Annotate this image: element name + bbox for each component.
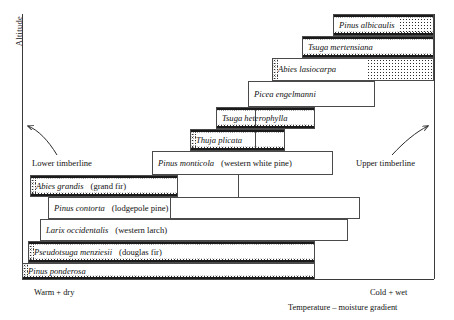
species-label: Thuja plicata [191, 136, 242, 145]
species-scientific-name: Pseudotsuga menziesii [34, 247, 112, 257]
species-scientific-name: Tsuga heterophylla [222, 113, 288, 123]
species-label: Pseudotsuga menziesii(douglas fir) [29, 248, 162, 257]
species-common-name: (western larch) [108, 225, 167, 235]
edge-line-bottom [23, 277, 314, 279]
x-axis-left-label: Warm + dry [34, 288, 74, 297]
species-label: Pinus albicaulis [334, 21, 395, 30]
x-axis-right-label: Cold + wet [370, 288, 407, 297]
edge-line-bottom [303, 55, 433, 57]
species-scientific-name: Abies lasiocarpa [278, 64, 336, 74]
species-bar[interactable]: Abies lasiocarpa [272, 58, 434, 81]
edge-line-top [31, 176, 177, 178]
species-label: Tsuga mertensiana [303, 43, 373, 52]
species-scientific-name: Pinus contorta [54, 203, 105, 213]
diagram-canvas: Altitude Pinus albicaulisTsuga mertensia… [0, 0, 454, 320]
species-bar[interactable]: Pinus albicaulis [333, 14, 434, 36]
species-scientific-name: Pinus ponderosa [28, 266, 86, 276]
species-label: Larix occidentalis(western larch) [41, 226, 167, 235]
species-label: Pinus ponderosa [23, 267, 86, 276]
species-scientific-name: Abies grandis [36, 181, 84, 191]
species-scientific-name: Picea engelmanni [254, 89, 316, 99]
edge-line-top [29, 242, 314, 244]
species-bar[interactable]: Larix occidentalis(western larch) [40, 219, 348, 241]
edge-line-bottom [334, 33, 433, 35]
edge-line-top [217, 108, 314, 110]
species-bar[interactable]: Pinus ponderosa [22, 263, 315, 280]
species-label: Pinus contorta(lodgepole pine) [49, 204, 168, 213]
stipple-right-zone [399, 15, 434, 35]
x-axis-title: Temperature – moisture gradient [288, 303, 397, 312]
species-scientific-name: Tsuga mertensiana [308, 42, 373, 52]
species-bar[interactable]: Pseudotsuga menziesii(douglas fir) [28, 241, 315, 263]
species-common-name: (western white pine) [214, 158, 292, 168]
species-label: Picea engelmanni [249, 90, 316, 99]
lower-timberline-label: Lower timberline [32, 158, 92, 168]
lower-timberline-arrow [28, 126, 57, 155]
species-scientific-name: Pinus monticola [158, 158, 214, 168]
species-label: Abies lasiocarpa [273, 65, 336, 74]
species-scientific-name: Thuja plicata [196, 135, 242, 145]
edge-line-bottom [29, 260, 314, 262]
species-bar[interactable]: Abies grandis(grand fir) [30, 175, 178, 197]
edge-line-top [303, 37, 433, 39]
species-bar[interactable]: Pinus monticola(western white pine) [152, 151, 333, 175]
species-scientific-name: Pinus albicaulis [339, 20, 395, 30]
species-bar[interactable]: Tsuga heterophylla [216, 107, 315, 129]
species-bar[interactable]: Picea engelmanni [248, 81, 375, 107]
species-bar[interactable]: Tsuga mertensiana [302, 36, 434, 58]
species-bar[interactable]: Pinus contorta(lodgepole pine) [48, 197, 360, 219]
species-label: Pinus monticola(western white pine) [153, 159, 292, 168]
species-scientific-name: Larix occidentalis [46, 225, 108, 235]
species-bar[interactable]: Thuja plicata [190, 129, 285, 151]
stem-connector [238, 175, 239, 197]
species-label: Tsuga heterophylla [217, 114, 288, 123]
y-axis-line [22, 14, 23, 279]
stipple-right-zone [367, 59, 434, 80]
edge-line-top [334, 15, 433, 17]
upper-timberline-label: Upper timberline [356, 158, 415, 168]
stem-connector [170, 197, 171, 219]
edge-line-bottom [217, 126, 314, 128]
species-common-name: (grand fir) [84, 181, 127, 191]
edge-line-bottom [191, 148, 284, 150]
species-common-name: (lodgepole pine) [105, 203, 169, 213]
upper-timberline-arrow [392, 126, 428, 155]
edge-line-bottom [31, 194, 177, 196]
species-common-name: (douglas fir) [112, 247, 162, 257]
edge-line-top [191, 130, 284, 132]
species-label: Abies grandis(grand fir) [31, 182, 126, 191]
right-frame-line [434, 14, 435, 279]
